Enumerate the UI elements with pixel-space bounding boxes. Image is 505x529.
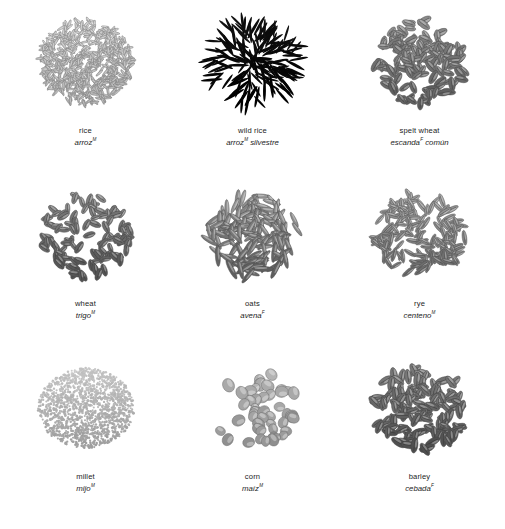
- specimen-cell-millet: milletmijoM: [2, 350, 169, 523]
- grain-pile-wild-rice-image: [179, 6, 327, 124]
- gender-marker-rye: M: [432, 310, 436, 315]
- gender-marker-wheat: M: [91, 310, 95, 315]
- specimen-caption-wild-rice: wild ricearrozM silvestre: [226, 126, 279, 147]
- specimen-cell-barley: barleycebadaF: [336, 350, 503, 523]
- gender-marker-wild-rice: M: [244, 137, 248, 142]
- spanish-name-corn: maízM: [242, 483, 263, 494]
- specimen-caption-corn: cornmaízM: [242, 472, 263, 493]
- common-name-wheat: wheat: [75, 299, 96, 309]
- spanish-name-barley: cebadaF: [405, 483, 434, 494]
- specimen-caption-barley: barleycebadaF: [405, 472, 434, 493]
- specimen-caption-oats: oatsavenaF: [240, 299, 264, 320]
- spanish-name-oats: avenaF: [240, 310, 264, 321]
- specimen-cell-spelt-wheat: spelt wheatescandaF común: [336, 4, 503, 177]
- specimen-cell-oats: oatsavenaF: [169, 177, 336, 350]
- spanish-name-wild-rice: arrozM silvestre: [226, 137, 279, 148]
- spanish-name-spelt-wheat: escandaF común: [390, 137, 448, 148]
- spanish-name-word-corn: maíz: [242, 483, 259, 492]
- grain-pile-wheat-image: [12, 179, 160, 297]
- grain-pile-oats-image: [179, 179, 327, 297]
- grain-pile-millet-image: [12, 352, 160, 470]
- common-name-spelt-wheat: spelt wheat: [390, 126, 448, 136]
- spanish-name-suffix-wild-rice: silvestre: [250, 137, 279, 146]
- common-name-oats: oats: [240, 299, 264, 309]
- spanish-name-word-millet: mijo: [76, 483, 90, 492]
- grain-pile-barley-image: [346, 352, 494, 470]
- common-name-wild-rice: wild rice: [226, 126, 279, 136]
- specimen-caption-wheat: wheattrigoM: [75, 299, 96, 320]
- grain-pile-spelt-wheat-image: [346, 6, 494, 124]
- spanish-name-suffix-spelt-wheat: común: [425, 137, 448, 146]
- common-name-corn: corn: [242, 472, 263, 482]
- common-name-rye: rye: [404, 299, 436, 309]
- grain-pile-rice-image: [12, 6, 160, 124]
- spanish-name-word-rye: centeno: [404, 310, 432, 319]
- spanish-name-word-barley: cebada: [405, 483, 431, 492]
- specimen-cell-wheat: wheattrigoM: [2, 177, 169, 350]
- spanish-name-word-wheat: trigo: [76, 310, 91, 319]
- gender-marker-millet: M: [91, 483, 95, 488]
- grain-specimen-grid: ricearrozMwild ricearrozM silvestrespelt…: [0, 0, 505, 529]
- common-name-barley: barley: [405, 472, 434, 482]
- common-name-rice: rice: [75, 126, 97, 136]
- specimen-caption-rice: ricearrozM: [75, 126, 97, 147]
- specimen-caption-millet: milletmijoM: [76, 472, 95, 493]
- gender-marker-spelt-wheat: F: [420, 137, 423, 142]
- spanish-name-rice: arrozM: [75, 137, 97, 148]
- grain-pile-rye-image: [346, 179, 494, 297]
- spanish-name-word-spelt-wheat: escanda: [390, 137, 419, 146]
- gender-marker-oats: F: [262, 310, 265, 315]
- specimen-caption-spelt-wheat: spelt wheatescandaF común: [390, 126, 448, 147]
- specimen-caption-rye: ryecentenoM: [404, 299, 436, 320]
- spanish-name-millet: mijoM: [76, 483, 95, 494]
- specimen-cell-rice: ricearrozM: [2, 4, 169, 177]
- spanish-name-word-oats: avena: [240, 310, 261, 319]
- specimen-cell-wild-rice: wild ricearrozM silvestre: [169, 4, 336, 177]
- gender-marker-barley: F: [431, 483, 434, 488]
- specimen-cell-rye: ryecentenoM: [336, 177, 503, 350]
- gender-marker-corn: M: [259, 483, 263, 488]
- grain-pile-corn-image: [179, 352, 327, 470]
- spanish-name-word-rice: arroz: [75, 137, 93, 146]
- specimen-cell-corn: cornmaízM: [169, 350, 336, 523]
- spanish-name-wheat: trigoM: [75, 310, 96, 321]
- common-name-millet: millet: [76, 472, 95, 482]
- spanish-name-rye: centenoM: [404, 310, 436, 321]
- gender-marker-rice: M: [93, 137, 97, 142]
- spanish-name-word-wild-rice: arroz: [226, 137, 244, 146]
